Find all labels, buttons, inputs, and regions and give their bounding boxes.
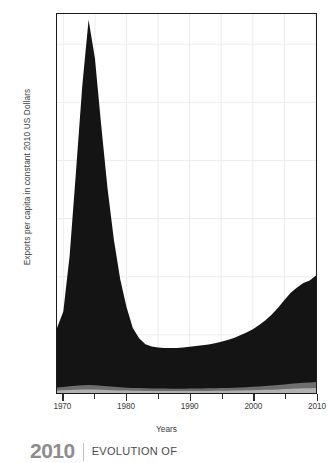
caption-strip: 2010 EVOLUTION OF: [30, 441, 177, 461]
x-tick-line: [158, 394, 159, 399]
x-tick-label: 1980: [117, 402, 135, 411]
caption-title: EVOLUTION OF: [92, 441, 178, 458]
caption-divider: [83, 443, 84, 461]
x-tick-line: [317, 394, 318, 401]
x-tick-label: 1990: [181, 402, 199, 411]
x-tick-line: [190, 394, 191, 401]
x-tick-line: [285, 394, 286, 399]
x-tick-line: [253, 394, 254, 401]
x-axis-label: Years: [0, 424, 333, 434]
area-series-layer: [57, 14, 316, 393]
x-tick-label: 2000: [244, 402, 262, 411]
x-tick-line: [94, 394, 95, 399]
caption-year: 2010: [30, 441, 75, 461]
x-tick-label: 2010: [308, 402, 326, 411]
x-tick-line: [126, 394, 127, 401]
x-tick-line: [222, 394, 223, 399]
y-axis-label: Exports per capita in constant 2010 US D…: [22, 52, 32, 302]
x-tick-line: [62, 394, 63, 401]
x-tick-label: 1970: [53, 402, 71, 411]
chart-figure: Exports per capita in constant 2010 US D…: [0, 0, 333, 463]
plot-area: [56, 13, 317, 394]
